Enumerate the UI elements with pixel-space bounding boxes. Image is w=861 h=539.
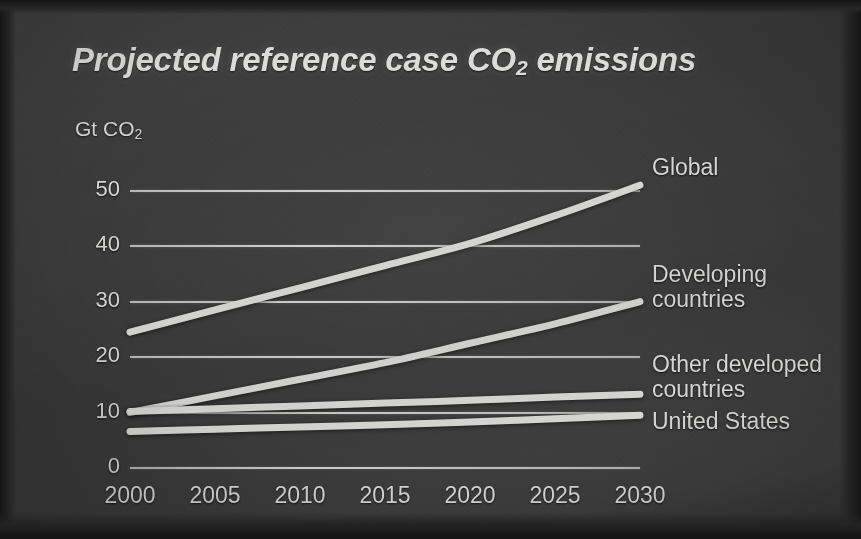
slide-edge-top: [0, 0, 861, 14]
series-label-global: Global: [652, 155, 718, 180]
slide-edge-bottom: [0, 513, 861, 539]
series-label-united-states: United States: [652, 409, 790, 434]
series-line-global: [130, 185, 640, 332]
series-label-developing-countries: Developing countries: [652, 262, 767, 312]
series-label-other-developed-countries: Other developed countries: [652, 352, 822, 402]
slide-canvas: Projected reference case CO2 emissions G…: [0, 0, 861, 539]
plot-area: 50403020100 2000200520102015202020252030…: [0, 0, 861, 539]
slide-edge-left: [0, 0, 16, 539]
series-line-united-states: [130, 415, 640, 431]
slide-edge-right: [839, 0, 861, 539]
